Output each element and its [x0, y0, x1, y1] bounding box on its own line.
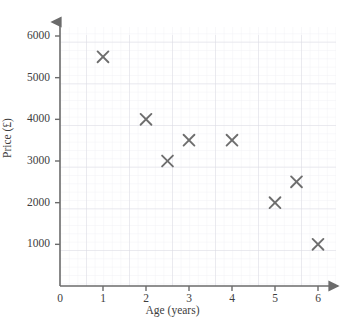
- x-axis-title: Age (years): [0, 305, 345, 317]
- x-tick-label-5: 5: [272, 293, 278, 305]
- y-axis-title: Price (£): [2, 118, 14, 158]
- scatter-chart: 1000 2000 3000 4000 5000 6000 0 1 2 3 4 …: [0, 0, 345, 323]
- x-tick-label-0: 0: [57, 293, 63, 305]
- y-tick-label-3000: 3000: [12, 155, 50, 167]
- x-tick-label-1: 1: [100, 293, 106, 305]
- x-tick-label-6: 6: [315, 293, 321, 305]
- y-tick-label-2000: 2000: [12, 197, 50, 209]
- x-tick-label-2: 2: [143, 293, 149, 305]
- plot-area: [0, 0, 345, 323]
- y-tick-label-6000: 6000: [12, 30, 50, 42]
- y-tick-label-1000: 1000: [12, 239, 50, 251]
- x-tick-label-4: 4: [229, 293, 235, 305]
- y-tick-label-4000: 4000: [12, 114, 50, 126]
- x-tick-label-3: 3: [186, 293, 192, 305]
- grid-major: [60, 35, 336, 286]
- y-tick-label-5000: 5000: [12, 72, 50, 84]
